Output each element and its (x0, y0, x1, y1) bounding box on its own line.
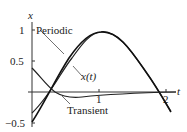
x-axis-label: t (177, 85, 181, 97)
y-axis-label: x (27, 9, 33, 21)
y-tick-label-05: 0.5 (10, 55, 24, 67)
transient-label: Transient (67, 104, 108, 116)
xt-label: x(t) (80, 70, 97, 83)
periodic-label: Periodic (36, 24, 73, 36)
transient-curve (32, 68, 176, 97)
y-tick-label-m05: −0.5 (5, 117, 25, 129)
response-chart: x t 1 0.5 −0.5 1 2 Periodic x(t) Transie… (0, 0, 187, 132)
y-tick-label-1: 1 (19, 24, 25, 36)
